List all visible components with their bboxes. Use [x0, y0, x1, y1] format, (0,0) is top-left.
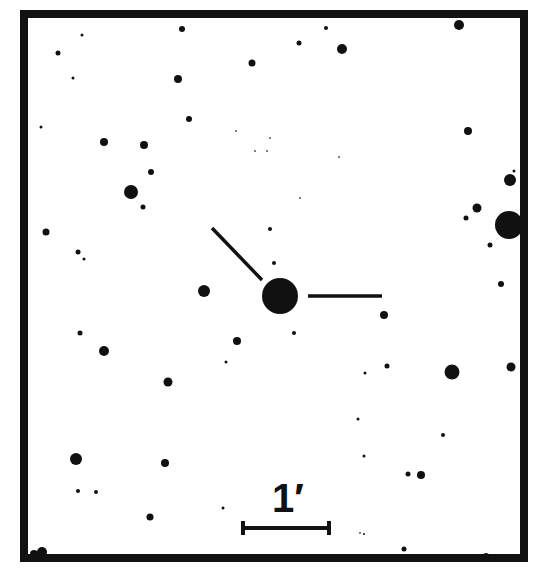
star — [174, 75, 182, 83]
star — [249, 60, 256, 67]
star — [268, 227, 272, 231]
star — [40, 126, 43, 129]
faint-star — [254, 150, 256, 152]
star — [124, 185, 138, 199]
star — [406, 472, 411, 477]
star — [337, 44, 347, 54]
star — [81, 34, 84, 37]
star — [164, 378, 173, 387]
star — [507, 363, 516, 372]
star — [417, 471, 425, 479]
target-markers — [212, 228, 382, 296]
star — [140, 141, 148, 149]
star — [363, 533, 365, 535]
star — [363, 455, 366, 458]
star — [498, 281, 504, 287]
star — [56, 51, 61, 56]
star — [43, 229, 50, 236]
star — [292, 331, 296, 335]
star — [464, 216, 469, 221]
star — [222, 507, 225, 510]
star — [99, 346, 109, 356]
star — [94, 490, 98, 494]
star — [83, 258, 86, 261]
star — [445, 365, 460, 380]
star — [76, 489, 80, 493]
star — [272, 261, 276, 265]
star — [441, 433, 445, 437]
star — [147, 514, 154, 521]
star — [225, 361, 228, 364]
star — [233, 337, 241, 345]
faint-star — [235, 130, 237, 132]
star — [357, 418, 360, 421]
star — [76, 250, 81, 255]
scale-bar-label: 1′ — [272, 478, 304, 518]
star — [100, 138, 108, 146]
star — [495, 211, 523, 239]
faint-star — [266, 150, 268, 152]
star — [454, 20, 464, 30]
star — [464, 127, 472, 135]
star — [488, 243, 493, 248]
star — [385, 364, 390, 369]
faint-star — [338, 156, 340, 158]
scale-bar — [243, 521, 329, 535]
star — [473, 204, 482, 213]
star — [402, 547, 407, 552]
star — [364, 372, 367, 375]
star — [78, 331, 83, 336]
star — [513, 170, 516, 173]
diagonal-tick-marker — [212, 228, 262, 280]
star — [504, 174, 516, 186]
star — [380, 311, 388, 319]
star — [198, 285, 210, 297]
faint-star — [359, 532, 361, 534]
faint-star — [269, 137, 271, 139]
star — [72, 77, 75, 80]
star — [297, 41, 302, 46]
star — [161, 459, 169, 467]
star — [148, 169, 154, 175]
star — [186, 116, 192, 122]
star — [324, 26, 328, 30]
faint-star — [299, 197, 301, 199]
star — [141, 205, 146, 210]
star — [70, 453, 82, 465]
star — [179, 26, 185, 32]
target-star — [262, 278, 298, 314]
